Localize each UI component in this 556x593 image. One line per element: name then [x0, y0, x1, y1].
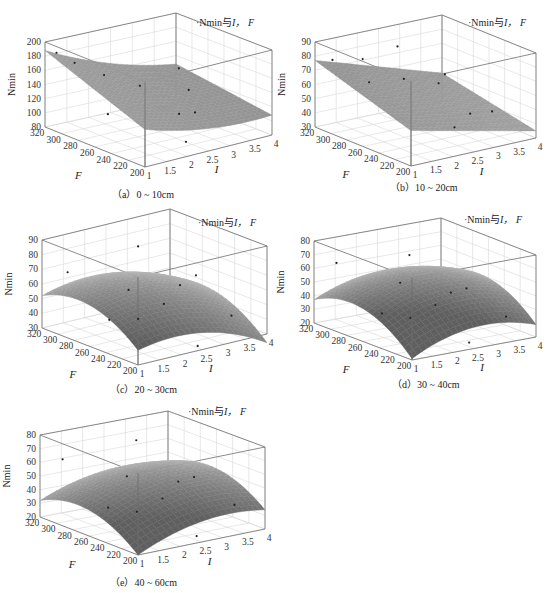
panel-b: 90807060504030Nmin320300280260240220200F…: [278, 0, 556, 200]
legend-f: F: [520, 17, 526, 28]
svg-text:200: 200: [396, 167, 411, 177]
svg-text:70: 70: [29, 264, 39, 274]
svg-text:240: 240: [364, 154, 379, 164]
panel-caption: （a）0 ~ 10cm: [112, 186, 174, 201]
surface: [42, 272, 267, 350]
svg-text:4: 4: [267, 533, 272, 543]
legend-f: F: [250, 217, 256, 228]
svg-text:220: 220: [380, 161, 395, 171]
svg-text:1: 1: [140, 559, 145, 569]
f-axis-label: F: [74, 169, 82, 181]
i-axis-label: I: [208, 362, 214, 374]
svg-text:320: 320: [27, 329, 42, 339]
i-axis-ticks: 11.522.533.54: [147, 139, 279, 181]
svg-text:4: 4: [269, 338, 274, 348]
surface: [315, 60, 536, 131]
i-axis-label: I: [479, 361, 485, 373]
svg-text:30: 30: [301, 304, 311, 314]
svg-text:3.5: 3.5: [513, 147, 525, 157]
svg-text:100: 100: [27, 108, 42, 118]
legend-i: I，: [504, 17, 517, 28]
svg-text:300: 300: [47, 135, 62, 145]
z-axis-ticks: 20018016014012010080: [27, 37, 42, 132]
svg-text:4: 4: [538, 341, 543, 351]
legend-prefix: ·Nmin: [198, 217, 224, 228]
svg-text:60: 60: [27, 457, 37, 467]
z-axis-ticks: 90807060504030: [302, 37, 312, 132]
svg-text:1: 1: [147, 171, 152, 181]
svg-text:1.5: 1.5: [158, 364, 170, 374]
svg-text:280: 280: [332, 141, 347, 151]
svg-text:260: 260: [74, 537, 89, 547]
svg-text:80: 80: [29, 250, 39, 260]
legend-i: I，: [232, 17, 245, 28]
svg-text:2: 2: [454, 161, 459, 171]
svg-text:1.5: 1.5: [157, 555, 169, 565]
svg-text:4: 4: [538, 142, 543, 152]
legend: ·Nmin与I， F: [196, 14, 254, 29]
svg-text:90: 90: [29, 235, 39, 245]
svg-text:320: 320: [30, 128, 45, 138]
svg-text:50: 50: [27, 471, 37, 481]
legend-i: I，: [500, 214, 513, 225]
surface-plot-a: 20018016014012010080Nmin3203002802602402…: [0, 0, 280, 200]
svg-text:280: 280: [63, 141, 78, 151]
legend-mid: 与: [494, 17, 504, 28]
i-axis-ticks: 11.522.533.54: [140, 338, 274, 379]
svg-text:3.5: 3.5: [249, 144, 261, 154]
i-axis-label: I: [207, 555, 213, 567]
surface-plot-e: 80706050403020Nmin320300280260240220200F…: [0, 395, 280, 593]
svg-text:30: 30: [27, 498, 37, 508]
panel-caption: （b）10 ~ 20cm: [390, 179, 458, 194]
svg-text:140: 140: [27, 80, 42, 90]
legend-f: F: [516, 214, 522, 225]
svg-text:3: 3: [231, 150, 236, 160]
panel-e: 80706050403020Nmin320300280260240220200F…: [0, 395, 280, 593]
legend-f: F: [240, 406, 246, 417]
svg-text:40: 40: [27, 485, 37, 495]
z-axis-label: Nmin: [6, 73, 17, 96]
f-axis-label: F: [69, 368, 77, 380]
svg-text:300: 300: [43, 335, 58, 345]
legend-prefix: ·Nmin: [464, 214, 490, 225]
legend-mid: 与: [214, 406, 224, 417]
i-axis-label: I: [479, 165, 485, 177]
svg-text:80: 80: [302, 51, 312, 61]
svg-text:3.5: 3.5: [244, 343, 256, 353]
svg-text:60: 60: [301, 263, 311, 273]
svg-text:90: 90: [302, 37, 312, 47]
panel-caption: （c）20 ~ 30cm: [110, 381, 177, 396]
svg-text:3: 3: [496, 349, 501, 359]
z-axis-label: Nmin: [276, 73, 287, 96]
legend-f: F: [248, 17, 254, 28]
svg-text:200: 200: [123, 556, 138, 566]
svg-text:280: 280: [332, 336, 347, 346]
svg-text:3: 3: [226, 348, 231, 358]
z-axis-label: Nmin: [1, 465, 12, 488]
svg-text:50: 50: [301, 277, 311, 287]
surface-plot-b: 90807060504030Nmin320300280260240220200F…: [278, 0, 556, 200]
svg-text:2: 2: [183, 359, 188, 369]
legend-prefix: ·Nmin: [468, 17, 494, 28]
svg-text:300: 300: [315, 330, 330, 340]
z-axis-label: Nmin: [275, 271, 286, 294]
svg-text:120: 120: [27, 94, 42, 104]
svg-text:200: 200: [27, 37, 42, 47]
svg-text:220: 220: [107, 360, 122, 370]
legend-mid: 与: [490, 214, 500, 225]
svg-text:320: 320: [299, 324, 314, 334]
legend: ·Nmin与I， F: [188, 403, 246, 418]
panel-a: 20018016014012010080Nmin3203002802602402…: [0, 0, 280, 200]
svg-text:1.5: 1.5: [164, 166, 176, 176]
legend: ·Nmin与I， F: [468, 14, 526, 29]
svg-text:1: 1: [140, 369, 145, 379]
surface: [45, 51, 272, 131]
svg-text:200: 200: [397, 361, 412, 371]
z-axis-ticks: 90807060504030: [29, 235, 39, 333]
svg-text:280: 280: [58, 531, 73, 541]
svg-text:40: 40: [301, 291, 311, 301]
svg-text:60: 60: [29, 279, 39, 289]
svg-text:300: 300: [41, 524, 56, 534]
i-axis-ticks: 11.522.533.54: [414, 341, 543, 374]
svg-text:320: 320: [300, 128, 315, 138]
